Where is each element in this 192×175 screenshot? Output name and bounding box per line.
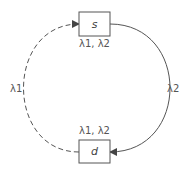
edge-d-to-s bbox=[24, 24, 80, 152]
edge-right-label: λ2 bbox=[167, 83, 179, 94]
diagram-canvas: s λ1, λ2 d λ1, λ2 λ1 λ2 bbox=[0, 0, 192, 175]
node-d: d bbox=[79, 140, 110, 163]
edge-left-label: λ1 bbox=[10, 83, 22, 94]
node-d-annotation: λ1, λ2 bbox=[79, 125, 110, 136]
node-s-label: s bbox=[92, 18, 98, 31]
node-s: s bbox=[79, 12, 110, 36]
node-d-label: d bbox=[91, 145, 99, 158]
edge-s-to-d bbox=[110, 24, 170, 152]
node-s-annotation: λ1, λ2 bbox=[79, 38, 110, 49]
